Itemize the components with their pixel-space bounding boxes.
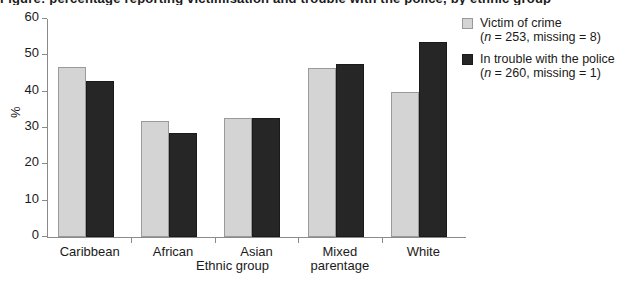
x-axis-label: Mixedparentage	[298, 245, 381, 273]
x-axis-label-line: Asian	[215, 245, 298, 259]
bar-group	[48, 19, 131, 237]
y-tick-mark	[42, 54, 47, 55]
y-tick-mark	[42, 163, 47, 164]
bar-chart: Figure: percentage reporting victimisati…	[0, 0, 627, 297]
x-tick-mark	[215, 238, 216, 243]
chart-title-cropped: Figure: percentage reporting victimisati…	[0, 0, 627, 5]
light-gray-swatch	[462, 18, 473, 29]
x-tick-mark	[382, 238, 383, 243]
bar	[141, 121, 169, 237]
y-tick-mark	[42, 18, 47, 19]
x-axis-label-line: White	[382, 245, 465, 259]
bar	[169, 133, 197, 237]
bar-group	[382, 19, 465, 237]
y-tick-mark	[42, 127, 47, 128]
x-tick-mark	[131, 238, 132, 243]
plot-area: 0102030405060 CaribbeanAfricanAsianMixed…	[48, 19, 465, 237]
y-tick-label: 0	[32, 228, 39, 241]
bar-group	[131, 19, 214, 237]
bar	[336, 64, 364, 237]
x-tick-mark	[298, 238, 299, 243]
legend-label: Victim of crime	[480, 16, 622, 30]
x-axis-label: White	[382, 245, 465, 259]
legend-note: (n = 253, missing = 8)	[480, 30, 622, 44]
x-axis-line	[47, 237, 466, 238]
bar	[308, 68, 336, 237]
y-tick-mark	[42, 91, 47, 92]
bar	[58, 67, 86, 237]
bar-group	[215, 19, 298, 237]
y-tick-label: 40	[25, 83, 39, 96]
x-axis-label: Asian	[215, 245, 298, 259]
y-tick-mark	[42, 236, 47, 237]
x-axis-label: Caribbean	[48, 245, 131, 259]
x-axis-label: African	[131, 245, 214, 259]
x-axis-label-line: African	[131, 245, 214, 259]
y-axis-title: %	[8, 106, 23, 118]
bar	[391, 92, 419, 237]
bar	[224, 118, 252, 237]
x-axis-label-line: parentage	[298, 259, 381, 273]
legend-label: In trouble with the police	[480, 52, 622, 66]
y-tick-label: 10	[25, 192, 39, 205]
y-tick-label: 60	[25, 10, 39, 23]
legend-entry-in-trouble-with-police: In trouble with the police (n = 260, mis…	[462, 52, 622, 80]
bar	[86, 81, 114, 237]
y-tick-label: 30	[25, 119, 39, 132]
bar-group	[298, 19, 381, 237]
legend-note: (n = 260, missing = 1)	[480, 66, 622, 80]
y-tick-label: 50	[25, 46, 39, 59]
legend-entry-victim-of-crime: Victim of crime (n = 253, missing = 8)	[462, 16, 622, 44]
chart-legend: Victim of crime (n = 253, missing = 8) I…	[462, 16, 622, 88]
x-axis-label-line: Caribbean	[48, 245, 131, 259]
bar	[419, 42, 447, 237]
dark-swatch	[462, 54, 473, 65]
y-tick-label: 20	[25, 155, 39, 168]
x-axis-title: Ethnic group	[196, 258, 269, 273]
bar	[252, 118, 280, 237]
y-tick-mark	[42, 200, 47, 201]
x-axis-label-line: Mixed	[298, 245, 381, 259]
